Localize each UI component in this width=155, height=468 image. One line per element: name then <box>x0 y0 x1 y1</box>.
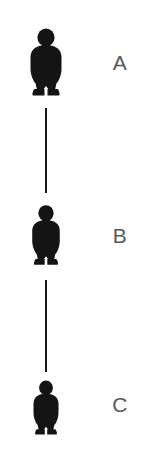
person-figure-b[interactable] <box>30 200 62 270</box>
person-figure-a[interactable] <box>28 28 64 96</box>
person-figure-c[interactable] <box>32 378 61 437</box>
node-label-a: A <box>113 52 128 73</box>
connector-b-c <box>45 280 47 372</box>
node-label-b: B <box>113 225 128 246</box>
person-silhouette-icon <box>28 28 64 96</box>
person-silhouette-icon <box>32 378 61 437</box>
connector-a-b <box>45 108 47 193</box>
node-label-c: C <box>112 394 128 415</box>
person-silhouette-icon <box>30 200 62 270</box>
diagram-canvas: A B C <box>0 0 155 468</box>
